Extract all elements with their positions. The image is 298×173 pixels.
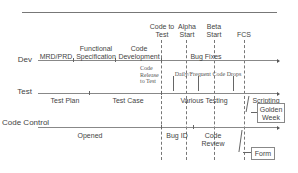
- drop-marker: [233, 76, 234, 91]
- dev-phase-code-development: Code Development: [118, 45, 160, 61]
- test-phase-test-plan: Test Plan: [45, 97, 85, 105]
- test-timeline: [38, 93, 278, 94]
- code-control-timeline: [38, 127, 278, 128]
- milestone-beta-start: Beta Start: [204, 23, 224, 39]
- callout-line-golden-week: [246, 96, 250, 112]
- test-arrow-icon: [277, 92, 280, 96]
- milestone-code-to-test: Code to Test: [148, 23, 176, 39]
- test-phase-various-testing: Various Testing: [178, 97, 230, 105]
- dev-tick: [161, 58, 162, 62]
- test-tick: [89, 91, 90, 95]
- milestone-line-fcs: [244, 40, 245, 160]
- test-tick: [161, 91, 162, 95]
- annotation-daily-drops: Daily/Frequent Code Drops: [168, 71, 248, 78]
- control-phase-bug-id: Bug ID: [164, 132, 190, 140]
- drop-marker: [173, 76, 174, 91]
- top-divider: [22, 12, 277, 13]
- annotation-code-release: Code Release to Test: [140, 65, 162, 85]
- dev-arrow-icon: [277, 59, 280, 63]
- control-tick: [161, 125, 162, 129]
- row-label-test: Test: [4, 87, 32, 96]
- callout-line-form: [238, 130, 242, 152]
- milestone-alpha-start: Alpha Start: [175, 23, 199, 39]
- control-phase-code-review: Code Review: [200, 132, 226, 148]
- control-tick: [193, 125, 194, 129]
- callout-golden-week: Golden Week: [257, 103, 285, 123]
- row-label-dev: Dev: [4, 55, 32, 64]
- dev-phase-mrd-prd: MRD/PRD: [38, 53, 74, 61]
- callout-form: Form: [251, 147, 275, 160]
- control-phase-opened: Opened: [70, 132, 110, 140]
- callout-line-form: [243, 152, 251, 153]
- drop-marker: [198, 76, 199, 91]
- row-label-code-control: Code Control: [2, 118, 34, 127]
- dev-phase-bug-fixes: Bug Fixes: [186, 53, 226, 61]
- dev-phase-functional-spec: Functional Specification: [76, 45, 116, 61]
- test-phase-test-case: Test Case: [108, 97, 148, 105]
- control-arrow-icon: [277, 126, 280, 130]
- milestone-fcs: FCS: [234, 31, 254, 39]
